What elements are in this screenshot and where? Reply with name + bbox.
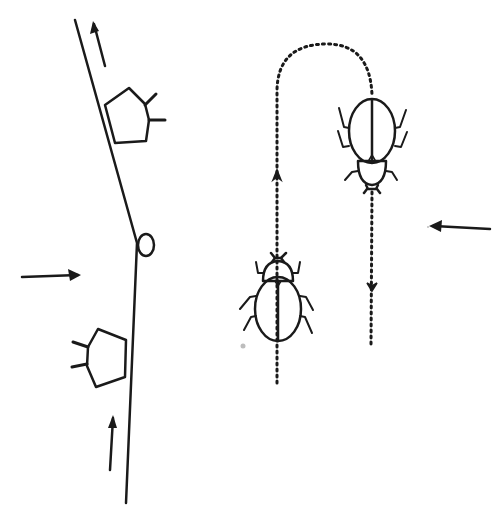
lower-pentagon-beetle-icon (72, 329, 126, 387)
arrow-right-icon (22, 269, 81, 281)
small-oval (138, 234, 154, 256)
speck (427, 226, 429, 228)
speck (241, 344, 246, 349)
left-panel (22, 20, 165, 503)
upper-pentagon-beetle-icon (105, 88, 165, 143)
right-panel (240, 44, 490, 383)
figure-canvas (0, 0, 502, 518)
arrow-up-icon (108, 415, 117, 470)
arrow-left-icon (429, 220, 490, 232)
beetle-facing-down-icon (338, 99, 407, 193)
dotted-path (277, 44, 372, 383)
slanted-line (75, 20, 137, 503)
dotted-path (371, 192, 372, 345)
arrow-up-icon (90, 21, 105, 66)
